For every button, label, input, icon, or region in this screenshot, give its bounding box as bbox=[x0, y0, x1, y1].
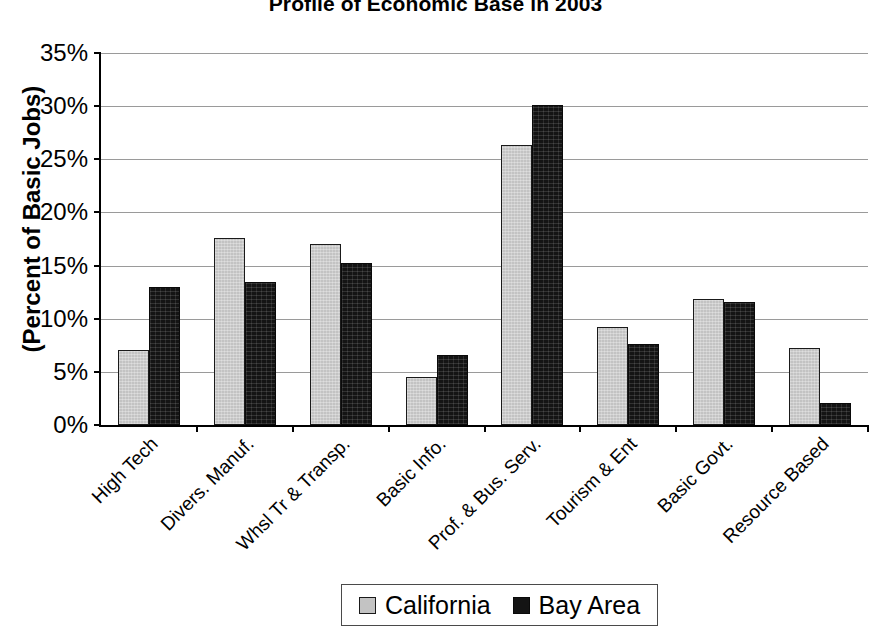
y-axis-tick-label: 5% bbox=[26, 360, 88, 384]
plot-area bbox=[99, 53, 868, 427]
legend-label: California bbox=[385, 593, 491, 618]
legend-entry: California bbox=[359, 593, 491, 618]
bar-group bbox=[501, 53, 563, 425]
bar-bay-area bbox=[149, 287, 180, 425]
y-axis-tick-mark bbox=[94, 265, 101, 267]
y-axis-tick-mark bbox=[94, 318, 101, 320]
y-axis-tick-mark bbox=[94, 105, 101, 107]
bar-group bbox=[214, 53, 276, 425]
legend-entry: Bay Area bbox=[513, 593, 640, 618]
bar-california bbox=[597, 327, 628, 425]
chart-legend: CaliforniaBay Area bbox=[341, 584, 658, 626]
bar-chart: Profile of Economic Base in 2003 (Percen… bbox=[0, 0, 871, 637]
y-axis-tick-label: 15% bbox=[26, 254, 88, 278]
y-axis-tick-mark bbox=[94, 158, 101, 160]
bar-california bbox=[406, 377, 437, 425]
bar-california bbox=[501, 145, 532, 425]
y-axis-tick-label: 10% bbox=[26, 307, 88, 331]
legend-swatch-bay-area bbox=[513, 597, 530, 614]
bar-bay-area bbox=[341, 263, 372, 425]
bar-bay-area bbox=[532, 105, 563, 425]
y-axis-tick-label: 35% bbox=[26, 41, 88, 65]
bar-group bbox=[693, 53, 755, 425]
bar-california bbox=[118, 350, 149, 425]
bar-california bbox=[310, 244, 341, 425]
y-axis-tick-label: 30% bbox=[26, 94, 88, 118]
legend-label: Bay Area bbox=[539, 593, 640, 618]
chart-title: Profile of Economic Base in 2003 bbox=[0, 0, 871, 17]
y-axis-tick-label: 20% bbox=[26, 200, 88, 224]
bar-bay-area bbox=[437, 355, 468, 425]
bar-group bbox=[406, 53, 468, 425]
y-axis-tick-mark bbox=[94, 371, 101, 373]
bar-california bbox=[693, 299, 724, 425]
y-axis-tick-label: 0% bbox=[26, 413, 88, 437]
x-axis-category-labels: High TechDivers. Manuf.Whsl Tr & Transp.… bbox=[99, 425, 866, 565]
bar-bay-area bbox=[628, 344, 659, 425]
bar-california bbox=[214, 238, 245, 425]
bar-bay-area bbox=[245, 282, 276, 425]
legend-swatch-california bbox=[359, 597, 376, 614]
bar-group bbox=[597, 53, 659, 425]
bar-bay-area bbox=[724, 302, 755, 425]
bar-group bbox=[310, 53, 372, 425]
bar-group bbox=[118, 53, 180, 425]
y-axis-tick-mark bbox=[94, 52, 101, 54]
y-axis-tick-mark bbox=[94, 211, 101, 213]
x-axis-tick-mark bbox=[867, 425, 869, 432]
bar-california bbox=[789, 348, 820, 425]
bar-bay-area bbox=[820, 403, 851, 425]
y-axis-tick-label: 25% bbox=[26, 147, 88, 171]
bar-group bbox=[789, 53, 851, 425]
